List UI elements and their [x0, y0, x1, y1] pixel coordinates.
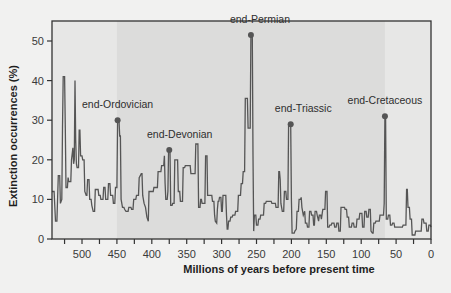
- x-tick-label: 450: [108, 248, 126, 260]
- extinction-event-label: end-Permian: [230, 13, 290, 25]
- y-tick-label: 10: [32, 193, 44, 205]
- y-axis: 01020304050: [32, 35, 52, 245]
- extinction-event-label: end-Triassic: [275, 102, 332, 114]
- extinction-marker-dot: [115, 117, 121, 123]
- y-tick-label: 20: [32, 154, 44, 166]
- extinction-marker-dot: [248, 32, 254, 38]
- x-tick-label: 300: [212, 248, 230, 260]
- y-tick-label: 30: [32, 114, 44, 126]
- y-tick-label: 0: [38, 233, 44, 245]
- x-tick-label: 250: [247, 248, 265, 260]
- y-tick-label: 40: [32, 75, 44, 87]
- extinction-chart: 01020304050 5004504003503002502001501005…: [0, 0, 451, 293]
- x-axis: 500450400350300250200150100500: [65, 239, 434, 260]
- x-tick-label: 100: [352, 248, 370, 260]
- y-tick-label: 50: [32, 35, 44, 47]
- x-tick-label: 500: [73, 248, 91, 260]
- x-tick-label: 400: [143, 248, 161, 260]
- extinction-event-label: end-Cretaceous: [348, 94, 423, 106]
- y-axis-title: Extinction occurrences (%): [7, 65, 19, 207]
- extinction-marker-dot: [288, 121, 294, 127]
- x-tick-label: 150: [317, 248, 335, 260]
- x-axis-title: Millions of years before present time: [183, 263, 374, 275]
- extinction-event-label: end-Devonian: [147, 128, 213, 140]
- x-tick-label: 50: [390, 248, 402, 260]
- extinction-marker-dot: [382, 113, 388, 119]
- extinction-event-label: end-Ordovician: [82, 98, 153, 110]
- x-tick-label: 350: [178, 248, 196, 260]
- extinction-marker-dot: [166, 147, 172, 153]
- x-tick-label: 200: [282, 248, 300, 260]
- x-tick-label: 0: [428, 248, 434, 260]
